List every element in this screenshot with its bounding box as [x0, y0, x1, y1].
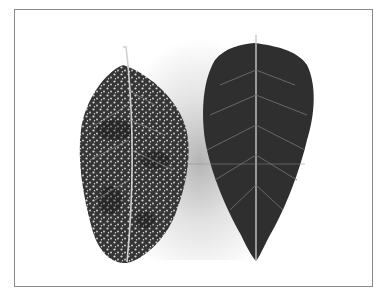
image-frame — [14, 9, 373, 287]
left-leaf — [80, 47, 189, 263]
leaves-illustration — [15, 10, 372, 286]
right-leaf — [187, 35, 314, 261]
